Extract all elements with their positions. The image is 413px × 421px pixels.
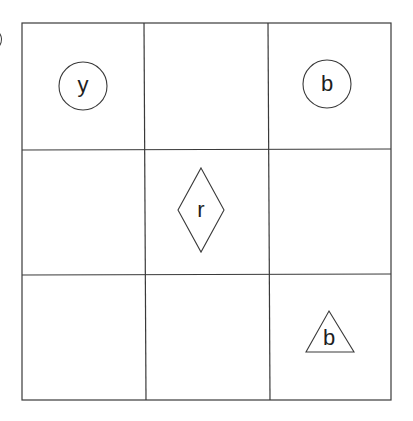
grid-divider-vertical-2 — [268, 23, 270, 400]
grid-divider-horizontal-1 — [22, 149, 391, 150]
circle-label-b: b — [321, 71, 333, 96]
grid-divider-horizontal-2 — [22, 274, 391, 275]
grid-divider-vertical-1 — [144, 23, 146, 400]
cell-r0c0-circle: y — [59, 62, 107, 110]
cell-r0c2-circle: b — [303, 60, 351, 108]
circle-label-y: y — [78, 72, 89, 97]
cell-r1c1-diamond: r — [178, 168, 224, 252]
clipped-edge-glyph — [0, 33, 2, 46]
cell-r2c2-triangle: b — [306, 311, 354, 352]
triangle-label-b: b — [323, 325, 335, 350]
grid-diagram: y b r b — [0, 0, 413, 421]
diamond-label-r: r — [197, 197, 204, 222]
